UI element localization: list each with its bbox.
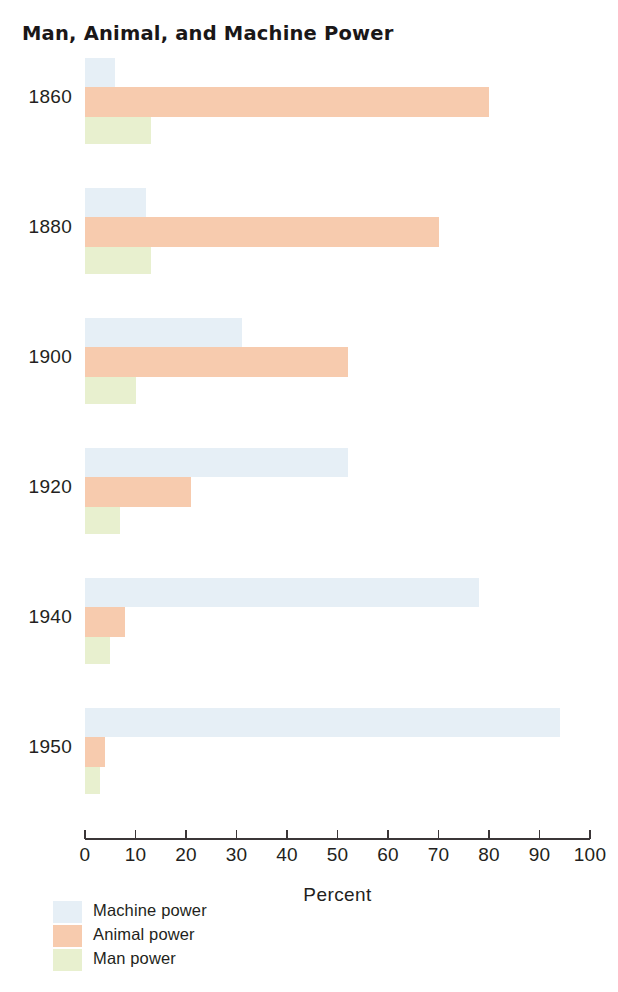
x-axis-tick xyxy=(337,830,339,839)
bar-group: 1920 xyxy=(0,448,618,534)
x-axis-tick-label: 20 xyxy=(163,844,209,866)
chart-title: Man, Animal, and Machine Power xyxy=(22,22,394,45)
bar-machine xyxy=(85,318,242,347)
bars-wrap xyxy=(85,318,590,404)
bar-group: 1950 xyxy=(0,708,618,794)
x-axis-tick-label: 10 xyxy=(113,844,159,866)
bar-animal xyxy=(85,737,105,767)
x-axis-tick-label: 0 xyxy=(62,844,108,866)
legend-label: Animal power xyxy=(93,925,195,944)
x-axis-tick-label: 40 xyxy=(264,844,310,866)
x-axis-tick xyxy=(84,830,86,839)
bar-group: 1900 xyxy=(0,318,618,404)
year-label: 1940 xyxy=(0,606,72,628)
bar-animal xyxy=(85,347,348,377)
bar-machine xyxy=(85,578,479,607)
chart-figure: Man, Animal, and Machine Power 186018801… xyxy=(0,0,618,992)
x-axis-tick-label: 70 xyxy=(416,844,462,866)
page-edge xyxy=(608,0,618,992)
x-axis-tick-label: 90 xyxy=(517,844,563,866)
bar-machine xyxy=(85,708,560,737)
legend-swatch-icon xyxy=(53,925,82,947)
x-axis-tick-label: 80 xyxy=(466,844,512,866)
year-label: 1950 xyxy=(0,736,72,758)
x-axis-tick xyxy=(539,830,541,839)
bars-wrap xyxy=(85,578,590,664)
bar-animal xyxy=(85,217,439,247)
x-axis: 0102030405060708090100 xyxy=(85,838,590,839)
x-axis-tick xyxy=(286,830,288,839)
bars-wrap xyxy=(85,188,590,274)
year-label: 1860 xyxy=(0,86,72,108)
year-label: 1880 xyxy=(0,216,72,238)
year-label: 1920 xyxy=(0,476,72,498)
plot-area: 186018801900192019401950 xyxy=(0,55,618,835)
bar-man xyxy=(85,637,110,664)
bar-animal xyxy=(85,607,125,637)
legend-swatch-icon xyxy=(53,901,82,923)
bar-machine xyxy=(85,448,348,477)
bar-man xyxy=(85,767,100,794)
x-axis-tick xyxy=(185,830,187,839)
x-axis-tick xyxy=(488,830,490,839)
x-axis-tick-label: 50 xyxy=(315,844,361,866)
bar-man xyxy=(85,117,151,144)
x-axis-tick xyxy=(135,830,137,839)
bar-group: 1880 xyxy=(0,188,618,274)
year-label: 1900 xyxy=(0,346,72,368)
bars-wrap xyxy=(85,58,590,144)
bar-animal xyxy=(85,477,191,507)
bar-machine xyxy=(85,188,146,217)
bar-machine xyxy=(85,58,115,87)
x-axis-tick-label: 30 xyxy=(214,844,260,866)
bar-man xyxy=(85,377,136,404)
legend-label: Man power xyxy=(93,949,176,968)
bar-man xyxy=(85,247,151,274)
legend-label: Machine power xyxy=(93,901,207,920)
x-axis-tick-label: 100 xyxy=(567,844,613,866)
x-axis-tick xyxy=(387,830,389,839)
bar-group: 1860 xyxy=(0,58,618,144)
x-axis-tick xyxy=(438,830,440,839)
x-axis-tick-label: 60 xyxy=(365,844,411,866)
x-axis-tick xyxy=(589,830,591,839)
bars-wrap xyxy=(85,448,590,534)
bar-man xyxy=(85,507,120,534)
bar-animal xyxy=(85,87,489,117)
bar-group: 1940 xyxy=(0,578,618,664)
legend-swatch-icon xyxy=(53,949,82,971)
x-axis-tick xyxy=(236,830,238,839)
bars-wrap xyxy=(85,708,590,794)
